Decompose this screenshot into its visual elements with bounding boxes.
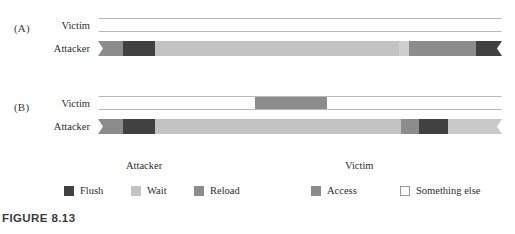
legend-swatch-access <box>311 186 321 196</box>
figure-caption: FIGURE 8.13 <box>2 212 75 224</box>
legend-label-access: Access <box>327 185 357 197</box>
legend-item-reload: Reload <box>194 184 240 198</box>
figure-8-13: (A) Victim Attacker (B) Victim Attacker … <box>0 0 515 234</box>
segment-wait <box>155 41 399 56</box>
legend-swatch-flush <box>64 186 74 196</box>
segment-flush <box>419 119 448 134</box>
panel-a-attacker-track <box>98 41 502 56</box>
segment-reload <box>401 119 419 134</box>
legend-swatch-something-else <box>400 186 410 196</box>
panel-a-victim-track <box>98 18 502 32</box>
segment-something-else <box>98 96 255 110</box>
segment-something-else <box>98 18 502 32</box>
panel-b-victim-track <box>98 96 502 110</box>
panel-b-attacker-label: Attacker <box>14 119 90 135</box>
legend-item-wait: Wait <box>131 184 167 198</box>
panel-a-attacker-label: Attacker <box>14 41 90 57</box>
segment-access <box>255 96 327 110</box>
segment-flush <box>123 41 155 56</box>
legend-group-title-victim: Victim <box>345 160 374 171</box>
legend-swatch-reload <box>194 186 204 196</box>
segment-reload <box>409 41 476 56</box>
segment-wait <box>155 119 401 134</box>
legend-label-reload: Reload <box>210 185 240 197</box>
legend: Attacker Victim Flush Wait Reload Access… <box>0 160 515 206</box>
segment-flush <box>476 41 502 56</box>
legend-label-flush: Flush <box>80 185 103 197</box>
legend-label-something-else: Something else <box>416 185 480 197</box>
segment-flush <box>123 119 155 134</box>
panel-b-attacker-track <box>98 119 502 134</box>
legend-label-wait: Wait <box>147 185 167 197</box>
panel-a-victim-label: Victim <box>14 18 90 34</box>
panel-b-attacker-row: Attacker <box>0 119 515 135</box>
panel-a-attacker-row: Attacker <box>0 41 515 57</box>
legend-swatch-wait <box>131 186 141 196</box>
legend-item-something-else: Something else <box>400 184 480 198</box>
legend-item-flush: Flush <box>64 184 103 198</box>
panel-b-victim-row: Victim <box>0 96 515 112</box>
legend-item-access: Access <box>311 184 357 198</box>
segment-reload <box>98 119 123 134</box>
segment-reload <box>98 41 123 56</box>
segment-wait <box>399 41 409 56</box>
segment-something-else <box>327 96 502 110</box>
segment-wait <box>448 119 502 134</box>
legend-group-title-attacker: Attacker <box>126 160 162 171</box>
panel-a-victim-row: Victim <box>0 18 515 34</box>
panel-b-victim-label: Victim <box>14 96 90 112</box>
